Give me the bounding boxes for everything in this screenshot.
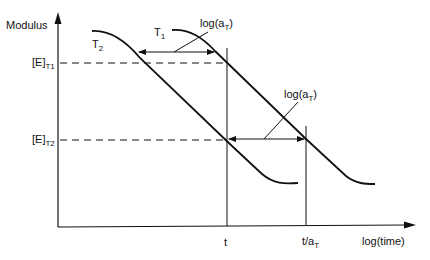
lower-log-at-label: log(aT): [284, 88, 317, 103]
lower-log-at-leader-line: [264, 102, 298, 139]
x-axis-label: log(time): [362, 235, 405, 247]
upper-log-at-label: log(aT): [200, 17, 233, 32]
e-t1-label: [E]T1: [32, 56, 55, 71]
t2-modulus-curve: [92, 31, 298, 183]
t2-curve-label: T2: [92, 38, 104, 53]
y-axis-arrow-icon: [55, 12, 62, 24]
e-t2-label: [E]T2: [32, 133, 55, 148]
t-label: t: [224, 236, 227, 248]
x-axis-arrow-icon: [404, 222, 416, 229]
x-axis: [58, 225, 408, 227]
t1-curve-label: T1: [154, 26, 166, 41]
t-over-at-label: t/aT: [302, 235, 319, 250]
time-temperature-superposition-diagram: Modulus log(time) [E]T1 [E]T2 t t/aT T2 …: [0, 0, 430, 260]
t1-modulus-curve: [172, 30, 375, 184]
upper-log-at-leader-line: [174, 32, 208, 52]
y-axis-label: Modulus: [6, 19, 48, 31]
